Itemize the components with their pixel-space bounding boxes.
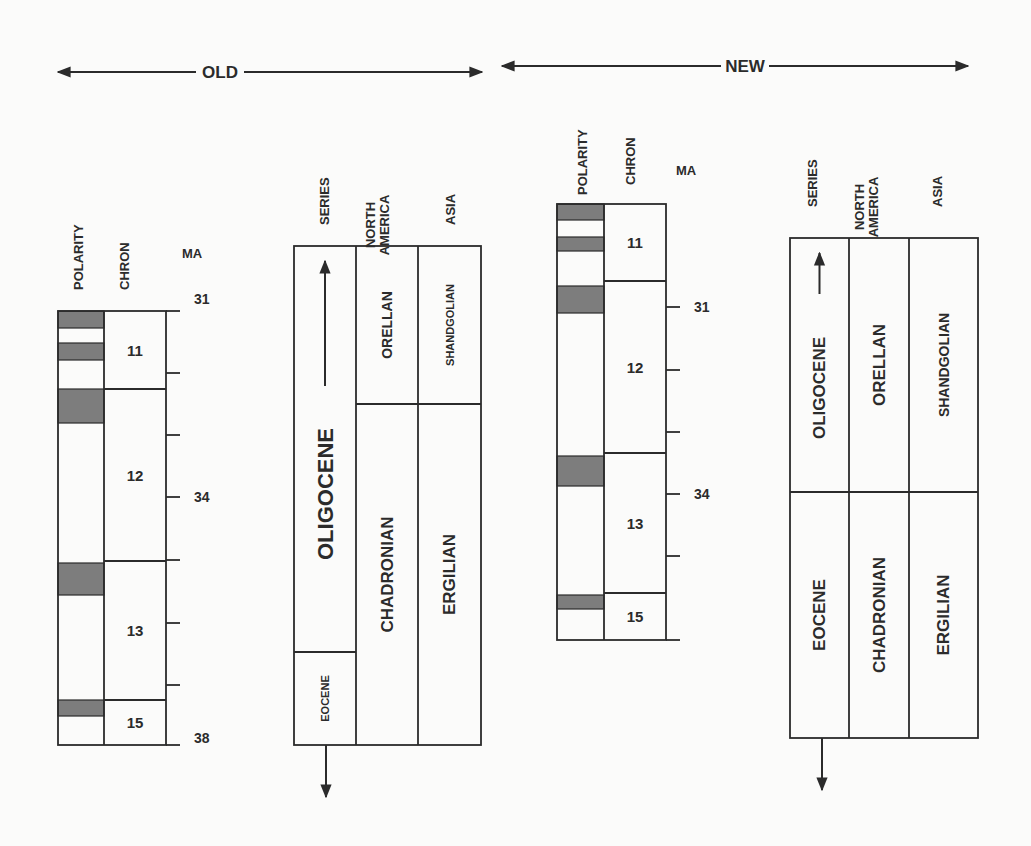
header-series: SERIES [805,159,820,207]
chron-label: 13 [127,622,144,639]
chron-label: 11 [127,342,143,359]
normal-polarity-band [557,237,604,251]
new-scheme-panel: NEWPOLARITYCHRONMASERIESNORTHAMERICAASIA… [502,57,978,791]
north-america-stage-label: ORELLAN [379,291,395,359]
oligocene-eocene-correlation-diagram: OLDPOLARITYCHRONMASERIESNORTHAMERICAASIA… [0,0,1031,846]
normal-polarity-band [58,563,104,595]
polarity-chron-column: 11121315 [557,204,666,640]
header-series: SERIES [317,177,332,225]
normal-polarity-band [557,286,604,313]
chron-label: 15 [127,714,144,731]
series-label: OLIGOCENE [313,428,338,560]
ma-tick-label: 31 [194,291,210,307]
chron-label: 15 [627,608,644,625]
header-polarity: POLARITY [575,129,590,195]
ma-tick-label: 31 [694,299,710,315]
normal-polarity-band [557,595,604,609]
ma-axis: 3134 [666,299,710,640]
ma-tick-label: 38 [194,730,210,746]
asia-stage-label: SHANDGOLIAN [936,313,952,417]
chron-label: 13 [627,515,644,532]
ma-tick-label: 34 [694,486,710,502]
header-north-america-line2: AMERICA [866,176,881,237]
normal-polarity-band [557,456,604,486]
ma-axis: 313438 [166,291,210,746]
old-scheme-panel: OLDPOLARITYCHRONMASERIESNORTHAMERICAASIA… [58,63,482,798]
series-label: EOCENE [319,675,331,721]
header-chron: CHRON [117,242,132,290]
north-america-stage-label: CHADRONIAN [870,557,889,673]
north-america-stage-label: ORELLAN [870,324,889,406]
polarity-chron-column: 11121315 [58,311,166,745]
asia-stage-label: ERGILIAN [934,574,953,655]
series-label: OLIGOCENE [810,337,829,439]
header-north-america-line1: NORTH [363,202,378,248]
asia-stage-label: SHANDGOLIAN [444,284,456,366]
chron-label: 12 [127,467,144,484]
stratigraphy-table: OLIGOCENEEOCENEORELLANCHADRONIANSHANDGOL… [294,246,481,797]
series-label: EOCENE [810,579,829,651]
header-asia: ASIA [930,175,945,207]
chron-label: 11 [627,234,643,251]
header-ma: MA [676,163,697,178]
chron-column-frame [58,311,166,745]
new-label: NEW [725,57,766,76]
ma-tick-label: 34 [194,489,210,505]
chron-column-frame [557,204,666,640]
header-north-america-line1: NORTH [852,184,867,230]
normal-polarity-band [58,389,104,423]
stratigraphy-table: OLIGOCENEEOCENEORELLANCHADRONIANSHANDGOL… [790,238,978,790]
north-america-stage-label: CHADRONIAN [378,516,397,632]
old-label: OLD [202,63,238,82]
asia-stage-label: ERGILIAN [440,534,459,615]
header-ma: MA [182,246,203,261]
normal-polarity-band [557,204,604,220]
header-asia: ASIA [443,193,458,225]
chron-label: 12 [627,359,644,376]
normal-polarity-band [58,700,104,716]
header-chron: CHRON [623,137,638,185]
normal-polarity-band [58,311,104,328]
header-polarity: POLARITY [71,224,86,290]
normal-polarity-band [58,343,104,360]
